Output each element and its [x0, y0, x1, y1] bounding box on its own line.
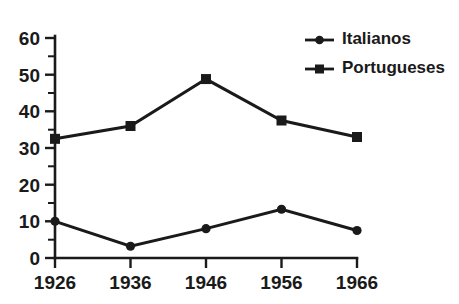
- data-point-portugueses-1936[interactable]: [126, 121, 136, 131]
- x-tick-label-1946: 1946: [185, 272, 227, 293]
- y-tick-label-30: 30: [19, 138, 40, 159]
- data-point-portugueses-1956[interactable]: [277, 116, 287, 126]
- y-tick-label-50: 50: [19, 65, 40, 86]
- legend-label-italianos: Italianos: [342, 29, 411, 48]
- x-axis-ticks: [55, 258, 357, 268]
- series-portugueses: [50, 74, 362, 144]
- legend-label-portugueses: Portugueses: [342, 58, 445, 77]
- series-italianos: [50, 205, 361, 251]
- legend-entry-portugueses[interactable]: Portugueses: [305, 58, 445, 77]
- data-point-italianos-1936[interactable]: [126, 242, 135, 251]
- y-tick-label-40: 40: [19, 101, 40, 122]
- data-point-portugueses-1926[interactable]: [50, 134, 60, 144]
- series-line-portugueses: [55, 79, 357, 139]
- x-tick-label-1936: 1936: [109, 272, 151, 293]
- y-tick-label-60: 60: [19, 28, 40, 49]
- line-chart: 0 10 20 30 40 50 60 1926 1936 1946 1956 …: [0, 0, 459, 304]
- data-point-portugueses-1946[interactable]: [201, 74, 211, 84]
- y-tick-label-0: 0: [29, 248, 40, 269]
- x-tick-label-1966: 1966: [336, 272, 378, 293]
- y-tick-label-20: 20: [19, 175, 40, 196]
- x-tick-label-1926: 1926: [34, 272, 76, 293]
- data-point-italianos-1966[interactable]: [352, 226, 361, 235]
- legend-circle-marker-icon: [315, 36, 324, 45]
- y-tick-label-10: 10: [19, 211, 40, 232]
- data-point-italianos-1956[interactable]: [277, 205, 286, 214]
- chart-plot-area: 0 10 20 30 40 50 60 1926 1936 1946 1956 …: [0, 0, 459, 304]
- legend-square-marker-icon: [315, 65, 324, 74]
- data-point-italianos-1946[interactable]: [201, 224, 210, 233]
- x-tick-label-1956: 1956: [260, 272, 302, 293]
- chart-legend: Italianos Portugueses: [305, 29, 445, 77]
- data-point-portugueses-1966[interactable]: [352, 132, 362, 142]
- data-point-italianos-1926[interactable]: [50, 217, 59, 226]
- legend-entry-italianos[interactable]: Italianos: [305, 29, 411, 48]
